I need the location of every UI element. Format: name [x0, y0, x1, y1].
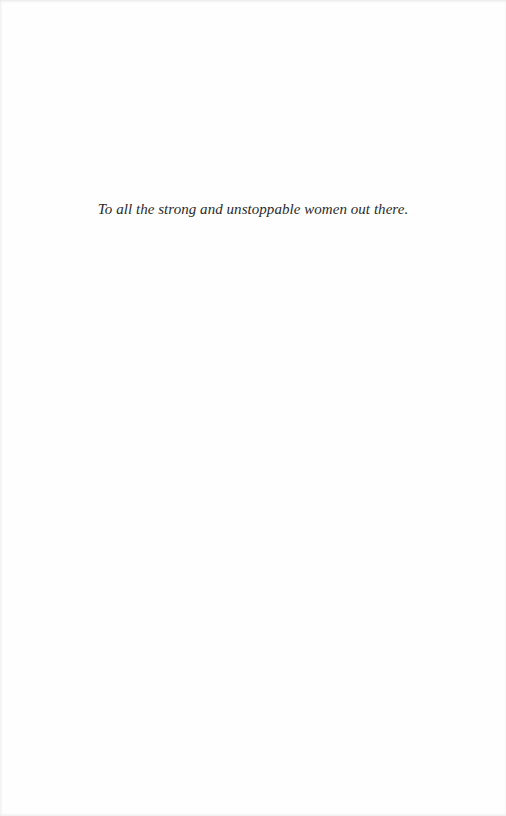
book-page: To all the strong and unstoppable women … [0, 0, 506, 816]
dedication-text: To all the strong and unstoppable women … [0, 201, 506, 218]
